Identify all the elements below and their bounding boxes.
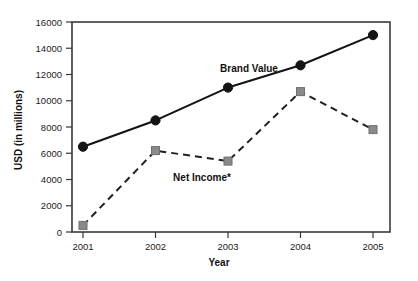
x-axis-ticks: [83, 232, 373, 238]
x-tick-label-2003: 2003: [217, 241, 238, 252]
data-point-brand-value-2005: [368, 30, 377, 39]
y-tick-label-14000: 14000: [36, 43, 62, 54]
data-point-net-income-2001: [79, 221, 87, 229]
data-point-net-income-2003: [224, 157, 232, 165]
line-chart: 0 2000 4000 6000 8000 10000 12000 14000 …: [0, 0, 418, 281]
plot-area-frame: [72, 22, 390, 232]
y-tick-label-10000: 10000: [36, 95, 62, 106]
x-axis-title: Year: [208, 257, 229, 268]
data-point-brand-value-2003: [223, 83, 232, 92]
series-label-net-income: Net Income*: [173, 172, 231, 183]
y-axis-title: USD (in millions): [13, 90, 24, 170]
chart-canvas: 0 2000 4000 6000 8000 10000 12000 14000 …: [0, 0, 418, 281]
x-tick-label-2002: 2002: [145, 241, 166, 252]
x-tick-label-2004: 2004: [290, 241, 311, 252]
data-point-brand-value-2002: [151, 116, 160, 125]
y-axis-tick-labels: 0 2000 4000 6000 8000 10000 12000 14000 …: [36, 17, 62, 238]
y-tick-label-2000: 2000: [41, 200, 62, 211]
series-label-brand-value: Brand Value: [220, 63, 278, 74]
y-tick-label-16000: 16000: [36, 17, 62, 28]
y-axis-ticks: [66, 22, 72, 232]
y-tick-label-0: 0: [57, 227, 62, 238]
data-point-net-income-2002: [152, 147, 160, 155]
y-tick-label-6000: 6000: [41, 148, 62, 159]
y-tick-label-12000: 12000: [36, 69, 62, 80]
data-point-net-income-2005: [369, 126, 377, 134]
x-tick-label-2001: 2001: [72, 241, 93, 252]
x-axis-tick-labels: 2001 2002 2003 2004 2005: [72, 241, 383, 252]
data-point-brand-value-2001: [78, 142, 87, 151]
y-tick-label-4000: 4000: [41, 174, 62, 185]
data-point-brand-value-2004: [296, 61, 305, 70]
x-tick-label-2005: 2005: [362, 241, 383, 252]
y-tick-label-8000: 8000: [41, 122, 62, 133]
data-point-net-income-2004: [297, 88, 305, 96]
